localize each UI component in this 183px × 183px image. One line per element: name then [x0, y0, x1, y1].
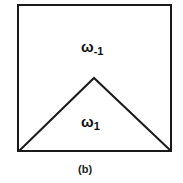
figure-caption: (b): [78, 163, 92, 175]
subscript: 1: [94, 120, 100, 132]
region-label-omega-1: ω1: [81, 114, 100, 132]
subscript: -1: [94, 45, 104, 57]
region-label-omega-minus-1: ω-1: [81, 39, 103, 57]
omega-symbol: ω: [81, 38, 94, 55]
domain-diagram: [0, 0, 183, 183]
omega-symbol: ω: [81, 113, 94, 130]
